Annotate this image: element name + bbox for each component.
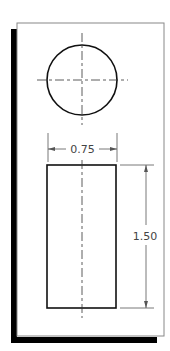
sheet-frame (17, 23, 164, 336)
sheet-shadow-left (11, 29, 17, 343)
drawing-canvas: 0.75 1.50 (0, 0, 170, 351)
width-dimension-label: 0.75 (70, 143, 95, 156)
height-dimension-label: 1.50 (133, 230, 158, 243)
sheet-shadow-bottom (11, 337, 157, 343)
